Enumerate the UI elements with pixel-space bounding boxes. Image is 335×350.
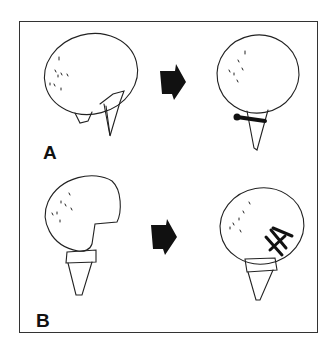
fixation-screw [234, 114, 266, 122]
panel-b-after-humerus [214, 181, 310, 300]
panel-b-before-humerus [45, 176, 120, 295]
panel-label-a: A [43, 142, 57, 164]
diagram-drawing [0, 0, 335, 350]
arrow-icon-a [160, 64, 186, 100]
fixation-pins [266, 228, 292, 255]
panel-label-b: B [36, 310, 50, 332]
panel-a-after-humerus [211, 28, 305, 150]
panel-a-before-humerus [35, 23, 147, 136]
arrow-icon-b [151, 219, 177, 255]
